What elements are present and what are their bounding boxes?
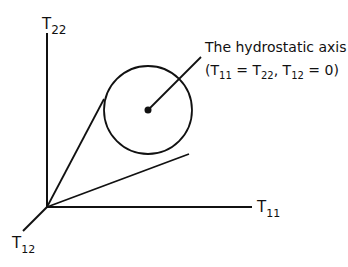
t12-axis-label: T12 [11,234,35,256]
cone-lower-tangent [47,154,189,207]
t11-axis-label: T11 [256,198,280,220]
annotation-condition: (T11 = T22, T12 = 0) [205,62,339,81]
annotation-title: The hydrostatic axis [204,39,346,55]
t12-axis [23,207,47,231]
t22-axis-label: T22 [41,15,66,37]
cone-upper-tangent [47,99,104,207]
hydrostatic-axis-diagram: T22 T11 T12 The hydrostatic axis (T11 = … [0,0,348,267]
annotation-leader-line [148,57,201,110]
